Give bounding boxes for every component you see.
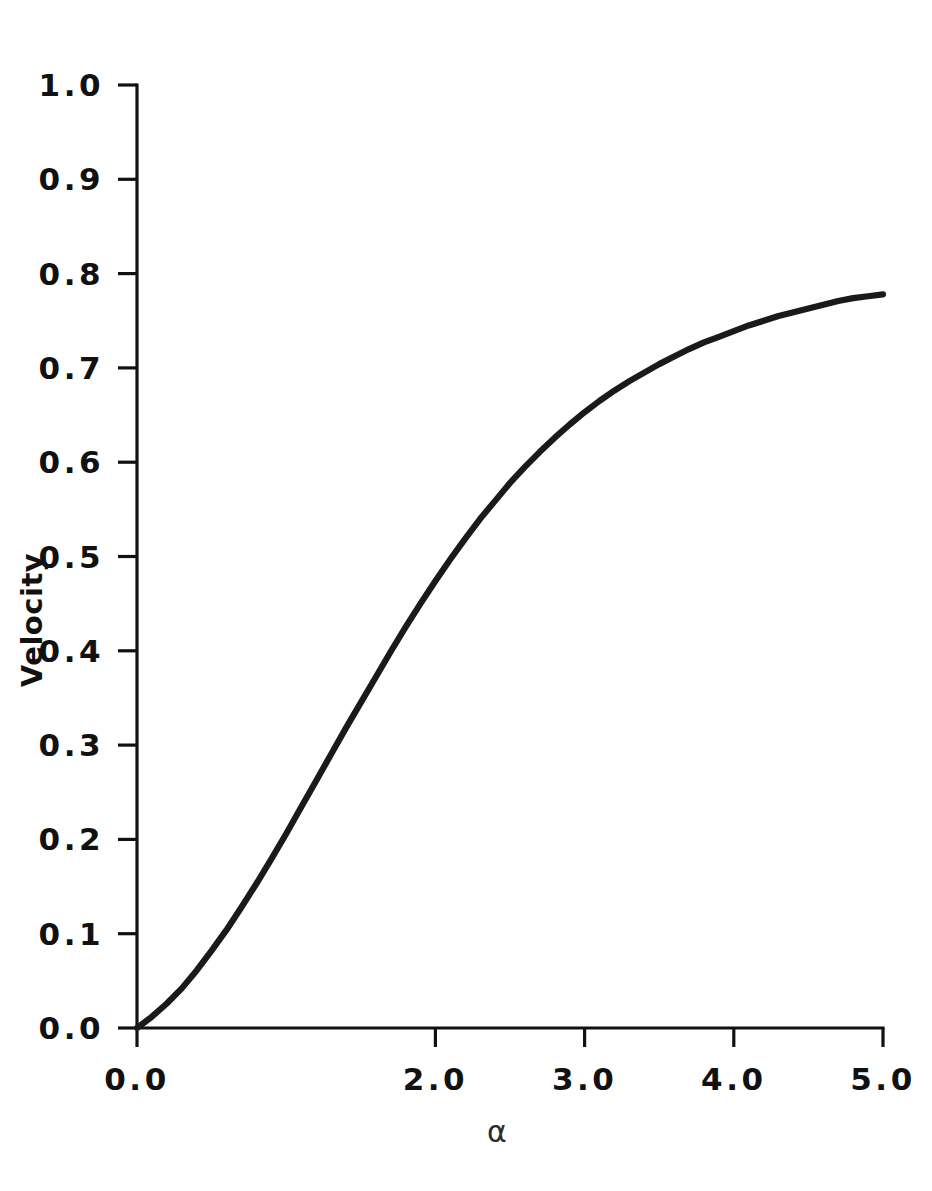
y-tick-label: 0.8 bbox=[39, 256, 104, 292]
y-tick-label: 0.3 bbox=[39, 727, 104, 763]
x-axis-title: α bbox=[487, 1114, 507, 1149]
x-tick-label: 5.0 bbox=[850, 1061, 915, 1097]
x-tick-label: 2.0 bbox=[403, 1061, 468, 1097]
y-tick-label: 0.0 bbox=[39, 1010, 104, 1046]
y-tick-label: 0.2 bbox=[39, 821, 104, 857]
y-tick-label: 1.0 bbox=[39, 67, 104, 103]
y-axis-title: Velocity bbox=[15, 553, 49, 687]
velocity-vs-alpha-line-chart: 0.00.10.20.30.40.50.60.70.80.91.0 0.02.0… bbox=[0, 0, 932, 1191]
x-tick-label: 3.0 bbox=[552, 1061, 617, 1097]
x-tick-label: 4.0 bbox=[701, 1061, 766, 1097]
chart-figure: 0.00.10.20.30.40.50.60.70.80.91.0 0.02.0… bbox=[0, 0, 932, 1191]
y-tick-label: 0.1 bbox=[39, 916, 104, 952]
x-tick-label: 0.0 bbox=[104, 1061, 169, 1097]
chart-background bbox=[0, 0, 932, 1191]
y-tick-label: 0.6 bbox=[39, 444, 104, 480]
y-tick-label: 0.9 bbox=[39, 161, 104, 197]
y-tick-label: 0.7 bbox=[39, 350, 104, 386]
